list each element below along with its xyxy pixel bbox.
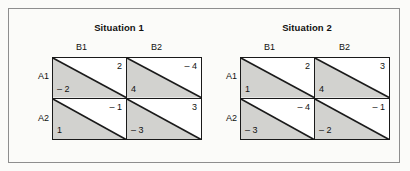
row-player-payoff: – 3 <box>131 126 144 135</box>
column-player-payoff: 2 <box>117 62 122 71</box>
column-player-payoff: 2 <box>305 62 310 71</box>
payoff-cell-a1b1: 1 2 <box>241 58 315 99</box>
column-player-payoff: 3 <box>380 62 385 71</box>
situation-panel-1: Situation 1 B1 B2 A1 A2 – 2 2 4 – 4 <box>36 9 216 162</box>
payoff-cell-a2b2: – 3 3 <box>127 99 201 140</box>
column-header-b1: B1 <box>44 42 119 52</box>
payoff-matrix: 1 2 4 3 – 3 – 4 <box>240 57 390 140</box>
row-player-payoff: – 2 <box>319 126 332 135</box>
payoff-cell-a1b2: 4 3 <box>315 58 389 99</box>
row-player-payoff: 1 <box>57 126 62 135</box>
row-player-payoff: – 3 <box>245 126 258 135</box>
column-player-payoff: – 4 <box>184 62 197 71</box>
row-label-a2: A2 <box>224 113 239 123</box>
column-player-payoff: – 1 <box>372 103 385 112</box>
row-player-payoff: 4 <box>319 85 324 94</box>
payoff-cell-a2b2: – 2 – 1 <box>315 99 389 140</box>
figure-frame: Situation 1 B1 B2 A1 A2 – 2 2 4 – 4 <box>8 8 400 163</box>
cell-diagonal-split <box>315 58 389 98</box>
row-player-payoff: – 2 <box>57 85 70 94</box>
column-header-b1: B1 <box>232 42 307 52</box>
payoff-cell-a1b2: 4 – 4 <box>127 58 201 99</box>
row-label-a1: A1 <box>36 71 51 81</box>
row-player-payoff: 4 <box>131 85 136 94</box>
column-header-b2: B2 <box>119 42 194 52</box>
row-player-payoff: 1 <box>245 85 250 94</box>
row-label-a1: A1 <box>224 71 239 81</box>
situation-title: Situation 2 <box>224 22 390 33</box>
cell-diagonal-split <box>241 58 314 98</box>
column-player-payoff: – 4 <box>297 103 310 112</box>
situation-title: Situation 1 <box>36 22 202 33</box>
column-header-b2: B2 <box>307 42 382 52</box>
payoff-cell-a2b1: – 3 – 4 <box>241 99 315 140</box>
row-label-a2: A2 <box>36 113 51 123</box>
payoff-cell-a2b1: 1 – 1 <box>53 99 127 140</box>
payoff-cell-a1b1: – 2 2 <box>53 58 127 99</box>
column-player-payoff: 3 <box>192 103 197 112</box>
column-player-payoff: – 1 <box>109 103 122 112</box>
situation-panel-2: Situation 2 B1 B2 A1 A2 1 2 4 3 <box>224 9 404 162</box>
payoff-matrix: – 2 2 4 – 4 1 – 1 <box>52 57 202 140</box>
